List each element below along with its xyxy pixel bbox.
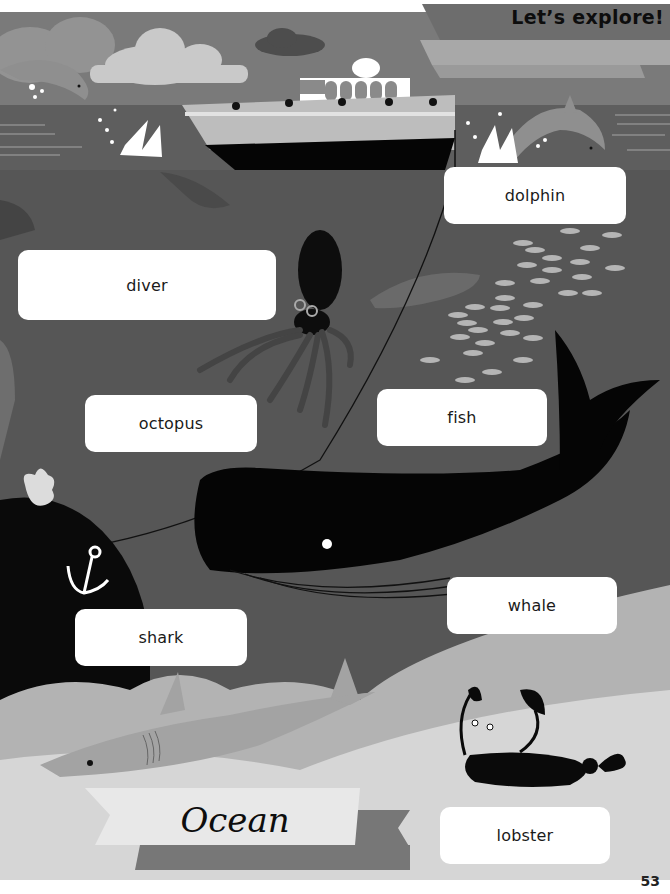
label-card-dolphin[interactable]: dolphin (444, 167, 626, 224)
label-card-fish[interactable]: fish (377, 389, 547, 446)
label-card-diver[interactable]: diver (18, 250, 276, 320)
banner-title: Ocean (150, 800, 320, 840)
label-text: fish (447, 408, 476, 427)
page-number: 53 (641, 873, 660, 889)
label-card-lobster[interactable]: lobster (440, 807, 610, 864)
label-text: shark (138, 628, 183, 647)
label-text: lobster (497, 826, 554, 845)
label-card-shark[interactable]: shark (75, 609, 247, 666)
label-text: dolphin (505, 186, 566, 205)
label-text: whale (508, 596, 556, 615)
label-card-octopus[interactable]: octopus (85, 395, 257, 452)
label-text: octopus (139, 414, 204, 433)
picture-dictionary-page: Let’s explore! dolphin diver octopus fis… (0, 0, 670, 894)
label-card-whale[interactable]: whale (447, 577, 617, 634)
label-text: diver (126, 276, 168, 295)
header-title: Let’s explore! (511, 6, 664, 28)
